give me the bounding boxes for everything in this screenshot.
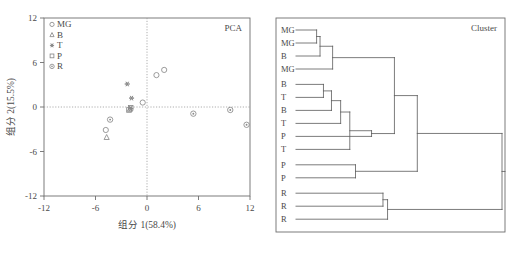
cluster-leaf-label: R: [281, 214, 287, 224]
figure-container: -12-60612-12-60612组分 1(58.4%)组分 2(15.5%)…: [0, 0, 513, 274]
cluster-leaf-labels: MGMGBMGBTBTPTPPRRR: [281, 25, 295, 224]
pca-data-points: [103, 67, 249, 139]
cluster-leaf-label: T: [281, 118, 287, 128]
pca-point-mg: [140, 100, 145, 105]
pca-point-mg: [162, 67, 167, 72]
pca-panel-title: PCA: [224, 23, 242, 33]
pca-legend-item-p: P: [50, 51, 62, 61]
legend-marker-open-circle-icon: [50, 22, 54, 26]
pca-series-b: [104, 106, 132, 139]
pca-y-tick-label: 12: [28, 13, 37, 23]
pca-legend-item-r: R: [50, 61, 63, 71]
pca-y-tick-label: -6: [30, 147, 38, 157]
pca-point-mg: [154, 73, 159, 78]
cluster-leaf-label: P: [281, 131, 286, 141]
pca-x-tick-label: 12: [246, 203, 255, 213]
cluster-leaf-label: MG: [281, 25, 295, 35]
pca-point-r: [107, 117, 112, 122]
pca-point-t: [125, 82, 130, 86]
cluster-leaf-label: B: [281, 79, 287, 89]
pca-legend-label: P: [57, 51, 62, 61]
cluster-leaf-label: T: [281, 92, 287, 102]
pca-x-tick-label: 0: [145, 203, 150, 213]
pca-legend-item-b: B: [50, 30, 63, 40]
legend-marker-open-triangle-icon: [50, 33, 54, 37]
pca-series-mg: [103, 67, 167, 132]
pca-legend-item-mg: MG: [50, 19, 72, 29]
cluster-leaf-label: R: [281, 188, 287, 198]
cluster-leaf-label: P: [281, 173, 286, 183]
pca-point-b: [104, 135, 109, 140]
legend-marker-open-square-icon: [50, 54, 54, 58]
pca-point-mg: [103, 127, 108, 132]
pca-x-tick-label: -6: [92, 203, 100, 213]
cluster-leaf-label: T: [281, 144, 287, 154]
pca-y-axis-title: 组分 2(15.5%): [5, 78, 17, 136]
cluster-leaf-label: MG: [281, 38, 295, 48]
cluster-leaf-label: B: [281, 51, 287, 61]
pca-legend-item-t: T: [50, 40, 63, 50]
pca-legend: MGBTPR: [46, 19, 76, 76]
cluster-leaf-label: B: [281, 105, 287, 115]
cluster-dendrogram-lines: [296, 30, 505, 219]
cluster-panel: ClusterMGMGBMGBTBTPTPPRRR: [276, 18, 505, 232]
pca-legend-label: B: [57, 30, 63, 40]
pca-x-tick-label: 6: [196, 203, 201, 213]
cluster-leaf-label: R: [281, 201, 287, 211]
pca-legend-label: R: [57, 61, 63, 71]
cluster-plot-frame: [276, 18, 505, 232]
pca-legend-label: MG: [57, 19, 72, 29]
cluster-panel-title: Cluster: [471, 23, 497, 33]
cluster-leaf-label: P: [281, 160, 286, 170]
pca-legend-label: T: [57, 40, 63, 50]
figure-svg: -12-60612-12-60612组分 1(58.4%)组分 2(15.5%)…: [0, 0, 513, 274]
legend-marker-star-icon: [50, 44, 54, 48]
pca-y-tick-label: 0: [33, 102, 38, 112]
pca-point-r: [244, 122, 249, 127]
pca-point-t: [129, 96, 134, 100]
pca-x-tick-label: -12: [38, 203, 50, 213]
pca-point-r: [191, 111, 196, 116]
pca-y-tick-label: 6: [33, 58, 38, 68]
cluster-leaf-label: MG: [281, 64, 295, 74]
legend-marker-circle-dot-icon: [50, 64, 54, 68]
pca-y-tick-label: -12: [25, 191, 37, 201]
pca-panel: -12-60612-12-60612组分 1(58.4%)组分 2(15.5%)…: [5, 13, 255, 231]
pca-x-axis-title: 组分 1(58.4%): [118, 219, 176, 231]
pca-point-r: [228, 107, 233, 112]
